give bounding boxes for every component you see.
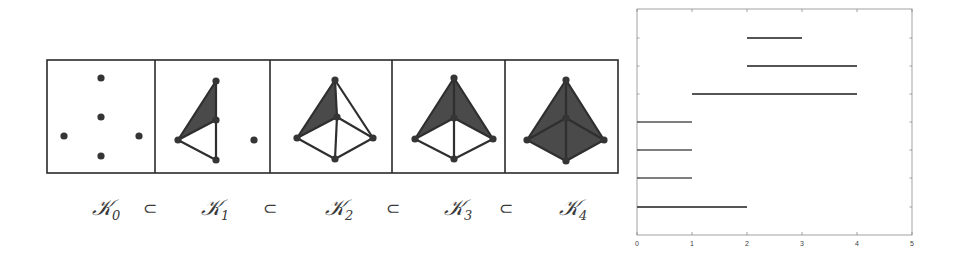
vertex-left — [411, 135, 418, 142]
vertex-mid — [212, 116, 219, 123]
subset-symbol: ⊂ — [386, 198, 400, 218]
vertex-bottom — [450, 155, 457, 162]
label-k3: 𝒦3 — [444, 195, 472, 223]
subset-symbol: ⊂ — [499, 198, 513, 218]
x-tick-label: 5 — [910, 240, 914, 247]
vertex-mid — [562, 114, 569, 121]
vertex-top — [562, 76, 569, 83]
vertex-bottom — [562, 157, 569, 164]
vertex-right — [135, 132, 142, 139]
subset-symbol: ⊂ — [263, 198, 277, 218]
persistence-barcode-chart: 012345 — [635, 9, 914, 247]
figure: 𝒦0𝒦1𝒦2𝒦3𝒦4⊂⊂⊂⊂ 012345 — [0, 0, 960, 258]
label-k2: 𝒦2 — [325, 195, 353, 223]
vertex-right — [600, 136, 607, 143]
vertex-mid — [97, 113, 104, 120]
vertex-right — [369, 134, 376, 141]
label-k0: 𝒦0 — [92, 195, 120, 223]
x-tick-label: 2 — [745, 240, 749, 247]
filtration-labels: 𝒦0𝒦1𝒦2𝒦3𝒦4⊂⊂⊂⊂ — [92, 195, 587, 223]
vertex-bottom — [212, 156, 219, 163]
vertex-top — [97, 74, 104, 81]
vertex-bottom — [97, 152, 104, 159]
label-k1: 𝒦1 — [201, 195, 229, 223]
vertex-left — [523, 136, 530, 143]
simplicial-filtration-diagram — [47, 60, 618, 173]
vertex-right — [489, 135, 496, 142]
vertex-left — [60, 132, 67, 139]
vertex-mid — [450, 114, 457, 121]
x-tick-label: 4 — [855, 240, 859, 247]
x-tick-label: 3 — [800, 240, 804, 247]
vertex-free — [250, 136, 257, 143]
vertex-top — [212, 77, 219, 84]
vertex-mid — [333, 113, 340, 120]
vertex-bottom — [331, 155, 338, 162]
vertex-left — [293, 134, 300, 141]
vertex-left — [174, 136, 181, 143]
vertex-top — [450, 74, 457, 81]
x-tick-label: 0 — [635, 240, 639, 247]
x-tick-label: 1 — [690, 240, 694, 247]
subset-symbol: ⊂ — [143, 198, 157, 218]
vertex-top — [331, 76, 338, 83]
label-k4: 𝒦4 — [559, 195, 587, 223]
